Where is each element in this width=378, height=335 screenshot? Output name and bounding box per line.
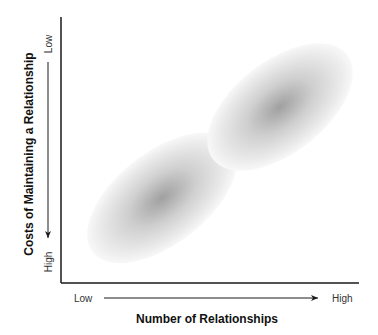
y-high-label: High [43,252,54,273]
y-axis-title: Costs of Maintaining a Relationship [22,52,36,255]
relationship-cost-diagram: Low High Costs of Maintaining a Relation… [0,0,378,335]
x-high-label: High [332,293,353,304]
y-low-label: Low [43,34,54,53]
x-low-label: Low [74,293,93,304]
x-axis-title: Number of Relationships [136,312,278,326]
